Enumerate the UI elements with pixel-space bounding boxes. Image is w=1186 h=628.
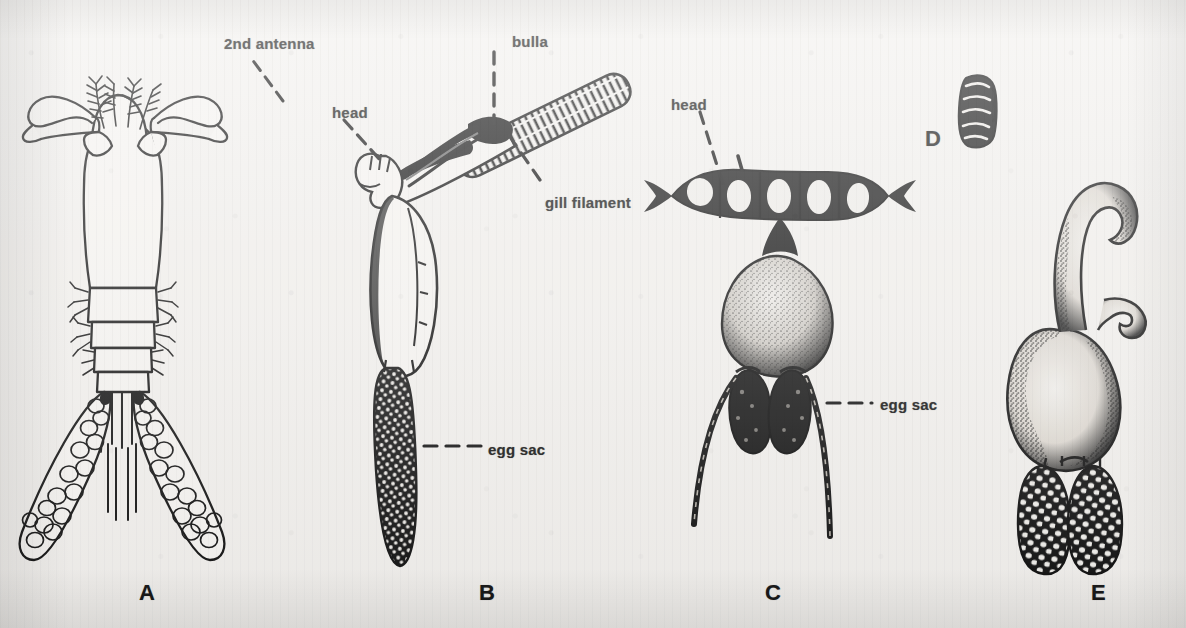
specimen-artwork (0, 0, 1186, 628)
panel-letter-a: A (139, 580, 155, 606)
specimen-b (356, 69, 636, 566)
specimen-c (644, 156, 916, 536)
panel-letter-e: E (1091, 580, 1106, 606)
annotation-bulla: bulla (512, 33, 548, 50)
panel-letter-c: C (765, 580, 781, 606)
specimen-d (959, 75, 997, 147)
specimen-e (1007, 183, 1145, 574)
annotation-second-antenna: 2nd antenna (224, 35, 315, 52)
annotation-egg-sac-b: egg sac (488, 441, 545, 458)
specimen-a (20, 76, 227, 560)
leader-second-antenna (251, 58, 283, 101)
annotation-head-b: head (332, 104, 368, 121)
panel-letter-b: B (479, 580, 495, 606)
annotation-head-c: head (671, 96, 707, 113)
annotation-gill-filament: gill filament (545, 194, 631, 211)
figure-plate: 2nd antenna head bulla gill filament egg… (0, 0, 1186, 628)
panel-letter-d: D (925, 126, 941, 152)
annotation-egg-sac-c: egg sac (880, 396, 937, 413)
